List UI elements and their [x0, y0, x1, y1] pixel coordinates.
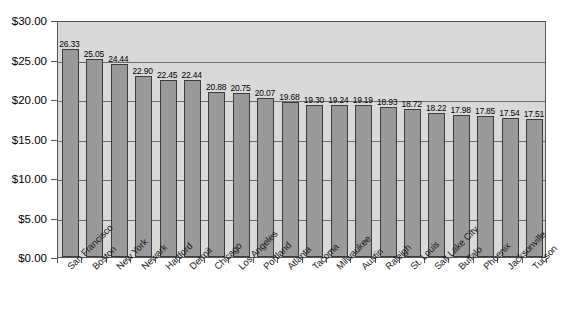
x-axis-labels: San FranciscoBostonNew YorkNewarkHartfor…	[0, 0, 562, 329]
x-axis-category-label: Tacoma	[310, 241, 341, 272]
bar-chart: $0.00$5.00$10.00$15.00$20.00$25.00$30.00…	[0, 0, 562, 329]
x-axis-tick-mark	[57, 258, 58, 263]
x-axis-category-label: Raleigh	[383, 242, 413, 272]
